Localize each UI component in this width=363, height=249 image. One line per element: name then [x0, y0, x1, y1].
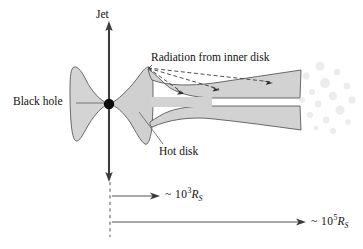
- gas-cloud-blob: [345, 119, 351, 125]
- gas-cloud-blob: [334, 69, 340, 75]
- jet-label: Jet: [96, 9, 109, 21]
- inner-scale-prefix: ~ 10: [165, 188, 188, 200]
- disk-waist: [150, 97, 212, 107]
- gas-cloud-blob: [309, 89, 315, 95]
- gas-cloud-blob: [299, 97, 305, 103]
- radiation-label: Radiation from inner disk: [151, 52, 270, 64]
- gas-cloud-blob: [314, 126, 318, 130]
- black-hole-label: Black hole: [13, 96, 63, 108]
- black-hole-diagram: Jet Radiation from inner disk Black hole…: [0, 0, 363, 249]
- gas-cloud-blob: [329, 92, 337, 100]
- left-disk-lobe: [70, 67, 108, 141]
- outer-scale-unit-subscript: S: [345, 221, 349, 230]
- radiation-ray-3: [148, 68, 272, 82]
- outer-scale-prefix: ~ 10: [311, 215, 334, 227]
- outer-disk-lower-surface: [150, 106, 301, 130]
- inner-hot-disk-lobe: [110, 67, 153, 144]
- outer-disk-upper-surface: [148, 69, 301, 98]
- gas-cloud-blob: [344, 83, 351, 90]
- gas-cloud-blob: [323, 117, 330, 124]
- gas-cloud-blob: [335, 105, 344, 114]
- inner-scale-label: ~ 103RS: [165, 189, 202, 201]
- gas-cloud-group: [299, 62, 355, 135]
- black-hole-dot: [104, 99, 114, 109]
- gas-cloud-blob: [316, 62, 325, 71]
- hot-disk-label: Hot disk: [159, 146, 198, 158]
- gas-cloud-blob: [307, 112, 313, 118]
- gas-cloud-blob: [320, 78, 330, 88]
- gas-cloud-blob: [330, 128, 336, 134]
- gas-cloud-blob: [302, 72, 309, 79]
- gas-cloud-blob: [315, 101, 322, 108]
- gas-cloud-blob: [348, 96, 355, 103]
- outer-scale-label: ~ 105RS: [311, 216, 348, 228]
- diagram-canvas: [0, 0, 363, 249]
- radiation-label-leader: [149, 65, 152, 68]
- inner-scale-unit: RS: [192, 188, 203, 200]
- inner-scale-unit-subscript: S: [199, 194, 203, 203]
- outer-scale-unit: RS: [338, 215, 349, 227]
